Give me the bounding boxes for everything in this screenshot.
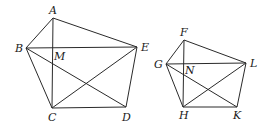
label-m: M (53, 50, 66, 63)
label-b: B (14, 42, 23, 55)
label-k: K (232, 109, 242, 122)
label-e: E (140, 41, 149, 54)
side-lf (184, 40, 246, 63)
label-a: A (48, 4, 57, 17)
pentagon-fghkl: FGNLHK (154, 26, 257, 122)
side-ea (53, 18, 137, 47)
side-kl (237, 63, 246, 107)
side-cd (52, 107, 126, 108)
label-c: C (48, 111, 57, 124)
pentagon-abcde: ABMECD (14, 4, 149, 124)
side-bc (26, 48, 52, 108)
label-d: D (121, 111, 131, 124)
diagonal-gl (166, 63, 246, 64)
label-f: F (179, 26, 188, 39)
side-gh (166, 64, 183, 107)
diagonal-bd (26, 48, 126, 107)
diagonal-fh (183, 40, 184, 107)
side-de (126, 47, 137, 107)
diagonal-gk (166, 64, 237, 107)
label-l: L (249, 57, 257, 70)
side-ab (26, 18, 53, 48)
side-fg (166, 40, 184, 64)
label-h: H (178, 109, 189, 122)
figure-canvas: ABMECD FGNLHK (0, 0, 268, 127)
geometry-figure: ABMECD FGNLHK (0, 0, 268, 127)
label-g: G (154, 58, 163, 71)
diagonal-be (26, 47, 137, 48)
label-n: N (184, 64, 195, 77)
